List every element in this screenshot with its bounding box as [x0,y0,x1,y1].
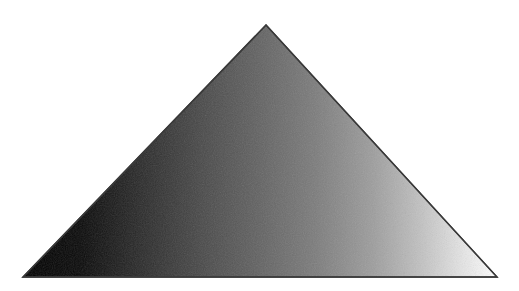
image-canvas [0,0,519,291]
triangle-figure-svg [0,0,519,291]
